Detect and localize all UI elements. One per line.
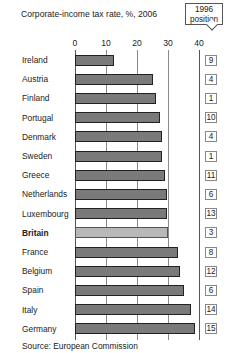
x-tick-label: 30: [163, 38, 173, 48]
bar-spain: [75, 285, 184, 296]
category-label: Greece: [22, 170, 49, 180]
category-label: Finland: [22, 93, 49, 103]
bar-greece: [75, 170, 165, 181]
category-label: Spain: [22, 285, 43, 295]
position-1996-badge: 13: [205, 208, 217, 219]
position-1996-badge: 4: [205, 74, 217, 85]
bar-austria: [75, 74, 153, 85]
position-divider-line: [199, 50, 200, 340]
x-tick-label: 40: [194, 38, 204, 48]
bar-belgium: [75, 266, 180, 277]
bar-france: [75, 247, 178, 258]
position-1996-badge: 8: [205, 247, 217, 258]
gridline: [168, 50, 169, 340]
bar-denmark: [75, 131, 162, 142]
bar-britain: [75, 227, 168, 238]
bar-netherlands: [75, 189, 167, 200]
position-1996-badge: 4: [205, 131, 217, 142]
category-label: Austria: [22, 74, 48, 84]
position-1996-badge: 14: [205, 304, 217, 315]
position-1996-badge: 10: [205, 112, 217, 123]
source-note: Source: European Commission: [22, 341, 138, 351]
category-label: Belgium: [22, 266, 52, 276]
position-1996-badge: 6: [205, 285, 217, 296]
position-1996-badge: 11: [205, 170, 217, 181]
position-1996-badge: 6: [205, 189, 217, 200]
position-1996-badge: 1: [205, 151, 217, 162]
category-label: Britain: [22, 228, 49, 238]
bar-finland: [75, 93, 156, 104]
position-1996-badge: 12: [205, 266, 217, 277]
category-label: Italy: [22, 305, 37, 315]
category-label: Germany: [22, 324, 56, 334]
bar-ireland: [75, 55, 114, 66]
category-label: Sweden: [22, 151, 52, 161]
x-tick-label: 10: [101, 38, 111, 48]
bar-portugal: [75, 112, 160, 123]
position-1996-badge: 3: [205, 227, 217, 238]
category-label: Luxembourg: [22, 209, 69, 219]
chart-title: Corporate-income tax rate, %, 2006: [21, 9, 157, 19]
position-callout: 1996 position: [185, 3, 223, 25]
category-label: Portugal: [22, 113, 53, 123]
position-1996-badge: 1: [205, 93, 217, 104]
category-label: Denmark: [22, 132, 56, 142]
position-1996-badge: 15: [205, 323, 217, 334]
category-label: Netherlands: [22, 189, 67, 199]
bar-germany: [75, 323, 195, 334]
callout-year: 1996: [186, 5, 222, 15]
x-tick-label: 20: [132, 38, 142, 48]
bar-luxembourg: [75, 208, 167, 219]
bar-italy: [75, 304, 191, 315]
bar-sweden: [75, 151, 162, 162]
position-1996-badge: 9: [205, 55, 217, 66]
category-label: Ireland: [22, 55, 48, 65]
x-tick-label: 0: [73, 38, 78, 48]
category-label: France: [22, 247, 48, 257]
